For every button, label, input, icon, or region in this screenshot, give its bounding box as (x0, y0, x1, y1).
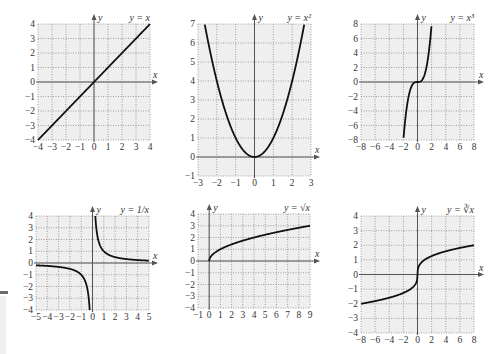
x-tick-label: 4 (443, 142, 448, 152)
x-axis-label: x (478, 262, 484, 273)
x-tick-label: −4 (384, 335, 394, 345)
x-tick-label: 0 (252, 178, 257, 188)
y-tick-label: 2 (30, 48, 35, 58)
x-tick-label: −2 (398, 335, 408, 345)
x-tick-label: −2 (61, 142, 71, 152)
y-tick-label: −2 (25, 106, 35, 116)
y-tick-label: 3 (28, 223, 33, 233)
x-tick-label: 2 (429, 335, 434, 345)
x-axis-label: x (314, 144, 320, 155)
y-tick-label: 0 (30, 77, 35, 87)
y-tick-labels: −4−3−2−101234 (25, 19, 35, 145)
x-tick-label: 2 (120, 142, 125, 152)
chart-title: y = x³ (449, 12, 475, 23)
y-axis-label: y (258, 12, 264, 23)
x-tick-label: −4 (42, 312, 52, 322)
y-axis-label: y (96, 204, 102, 215)
y-tick-label: 1 (353, 255, 358, 265)
x-tick-label: 1 (218, 310, 223, 320)
y-tick-label: 0 (190, 256, 195, 266)
x-tick-labels: −3−2−10123 (193, 178, 314, 188)
y-tick-label: 0 (190, 152, 195, 162)
y-tick-label: 4 (353, 48, 358, 58)
y-axis-arrow-icon (415, 206, 420, 212)
x-tick-labels: −8−6−4−202468 (356, 335, 477, 345)
chart-title: y = x² (286, 12, 312, 23)
x-tick-label: 4 (443, 335, 448, 345)
y-tick-label: −1 (348, 284, 358, 294)
x-tick-label: 0 (415, 335, 420, 345)
y-axis-arrow-icon (252, 14, 257, 20)
x-tick-label: 3 (240, 310, 245, 320)
y-tick-label: 3 (190, 221, 195, 231)
y-tick-label: −8 (348, 135, 358, 145)
y-axis-label: y (97, 12, 103, 23)
x-tick-label: −1 (76, 312, 86, 322)
y-tick-label: −2 (23, 282, 33, 292)
y-tick-label: 2 (353, 63, 358, 73)
x-tick-label: −3 (54, 312, 64, 322)
chart-2: xyy = x²−3−2−10123−101234567 (185, 12, 320, 188)
x-tick-labels: −8−6−4−202468 (356, 142, 477, 152)
y-tick-label: −3 (25, 121, 35, 131)
x-axis-label: x (152, 69, 158, 80)
x-tick-label: 8 (472, 142, 477, 152)
x-tick-label: 5 (147, 312, 152, 322)
graphs-canvas: xyy = x−4−3−2−101234−4−3−2−101234xyy = x… (0, 0, 499, 354)
y-tick-label: −3 (348, 313, 358, 323)
y-tick-label: 1 (28, 246, 33, 256)
x-tick-label: 3 (124, 312, 129, 322)
y-tick-labels: −8−6−4−202468 (348, 19, 358, 145)
y-tick-label: 1 (30, 63, 35, 73)
y-tick-label: −4 (348, 106, 358, 116)
x-tick-label: 0 (90, 312, 95, 322)
x-tick-label: 4 (252, 310, 257, 320)
y-tick-label: 3 (190, 95, 195, 105)
x-tick-label: 4 (135, 312, 140, 322)
y-tick-label: 4 (28, 211, 33, 221)
y-tick-label: 5 (190, 57, 195, 67)
x-tick-label: −1 (75, 142, 85, 152)
y-tick-label: 1 (190, 133, 195, 143)
edge-marker (0, 291, 8, 294)
x-tick-label: 8 (296, 310, 301, 320)
x-tick-label: 0 (207, 310, 212, 320)
x-tick-label: 1 (271, 178, 276, 188)
x-tick-label: 2 (113, 312, 118, 322)
x-tick-label: 3 (134, 142, 139, 152)
x-tick-labels: −10123456789 (193, 310, 313, 320)
x-tick-label: 2 (229, 310, 234, 320)
y-tick-label: −6 (348, 121, 358, 131)
y-tick-label: 1 (190, 244, 195, 254)
y-tick-label: −1 (185, 268, 195, 278)
y-tick-labels: −4−3−2−101234 (23, 211, 33, 315)
y-axis-label: y (421, 12, 427, 23)
y-tick-label: −2 (185, 280, 195, 290)
x-tick-label: 6 (458, 335, 463, 345)
y-tick-label: 2 (353, 240, 358, 250)
y-axis-arrow-icon (207, 204, 212, 210)
y-tick-labels: −101234567 (185, 19, 195, 181)
x-axis-label: x (478, 69, 484, 80)
y-tick-label: 4 (353, 211, 358, 221)
y-axis-arrow-icon (92, 14, 97, 20)
chart-title: y = 1/x (120, 204, 150, 215)
x-tick-label: −2 (65, 312, 75, 322)
y-tick-label: 6 (190, 38, 195, 48)
y-axis-arrow-icon (90, 206, 95, 212)
x-tick-label: −3 (47, 142, 57, 152)
x-axis-arrow-icon (478, 272, 484, 277)
y-tick-labels: −4−3−2−101234 (185, 209, 195, 313)
y-tick-label: 2 (190, 114, 195, 124)
chart-title: y = x (128, 12, 150, 23)
y-tick-label: 0 (353, 270, 358, 280)
y-tick-label: 3 (353, 226, 358, 236)
y-tick-label: −3 (23, 293, 33, 303)
x-tick-label: 8 (472, 335, 477, 345)
y-tick-label: 2 (28, 235, 33, 245)
y-axis-arrow-icon (415, 14, 420, 20)
x-tick-label: 0 (415, 142, 420, 152)
y-tick-label: −4 (25, 135, 35, 145)
y-tick-label: 8 (353, 19, 358, 29)
chart-title: y = √x (283, 202, 311, 213)
